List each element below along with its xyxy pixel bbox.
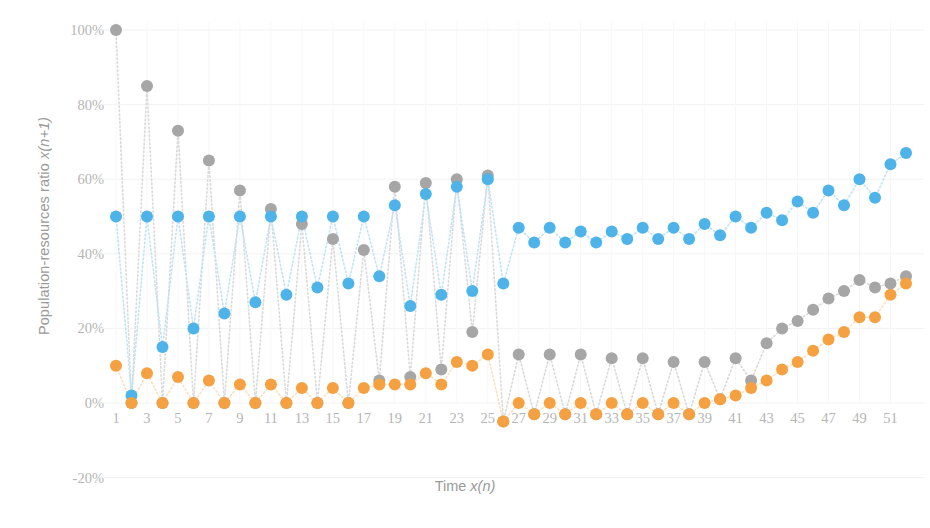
data-point[interactable] [575,397,587,409]
data-point[interactable] [621,233,633,245]
data-point[interactable] [823,334,835,346]
data-point[interactable] [714,393,726,405]
data-point[interactable] [373,270,385,282]
data-point[interactable] [435,378,447,390]
data-point[interactable] [513,349,525,361]
data-point[interactable] [606,397,618,409]
data-point[interactable] [730,352,742,364]
data-point[interactable] [188,397,200,409]
data-point[interactable] [342,278,354,290]
data-point[interactable] [513,397,525,409]
data-point[interactable] [358,382,370,394]
data-point[interactable] [435,289,447,301]
data-point[interactable] [683,233,695,245]
data-point[interactable] [327,382,339,394]
data-point[interactable] [249,296,261,308]
data-point[interactable] [885,158,897,170]
data-point[interactable] [327,211,339,223]
data-point[interactable] [807,345,819,357]
data-point[interactable] [559,408,571,420]
data-point[interactable] [234,211,246,223]
data-point[interactable] [234,378,246,390]
data-point[interactable] [280,289,292,301]
data-point[interactable] [497,416,509,428]
data-point[interactable] [203,155,215,167]
data-point[interactable] [838,285,850,297]
data-point[interactable] [420,367,432,379]
data-point[interactable] [528,237,540,249]
data-point[interactable] [110,24,122,36]
data-point[interactable] [157,397,169,409]
data-point[interactable] [606,225,618,237]
data-point[interactable] [218,308,230,320]
data-point[interactable] [389,181,401,193]
data-point[interactable] [869,311,881,323]
data-point[interactable] [807,207,819,219]
data-point[interactable] [451,356,463,368]
data-point[interactable] [761,375,773,387]
data-point[interactable] [126,397,138,409]
data-point[interactable] [451,181,463,193]
data-point[interactable] [699,218,711,230]
data-point[interactable] [466,360,478,372]
data-point[interactable] [389,378,401,390]
data-point[interactable] [699,356,711,368]
data-point[interactable] [404,378,416,390]
data-point[interactable] [575,349,587,361]
data-point[interactable] [544,222,556,234]
data-point[interactable] [652,233,664,245]
data-point[interactable] [188,322,200,334]
data-point[interactable] [807,304,819,316]
data-point[interactable] [466,326,478,338]
data-point[interactable] [637,397,649,409]
data-point[interactable] [792,356,804,368]
data-point[interactable] [823,184,835,196]
data-point[interactable] [265,378,277,390]
data-point[interactable] [420,177,432,189]
data-point[interactable] [730,390,742,402]
data-point[interactable] [110,360,122,372]
data-point[interactable] [838,326,850,338]
data-point[interactable] [141,80,153,92]
data-point[interactable] [358,244,370,256]
data-point[interactable] [761,207,773,219]
data-point[interactable] [854,173,866,185]
data-point[interactable] [885,289,897,301]
data-point[interactable] [683,408,695,420]
data-point[interactable] [559,237,571,249]
data-point[interactable] [296,211,308,223]
data-point[interactable] [203,211,215,223]
data-point[interactable] [528,408,540,420]
data-point[interactable] [358,211,370,223]
data-point[interactable] [110,211,122,223]
data-point[interactable] [342,397,354,409]
data-point[interactable] [761,337,773,349]
data-point[interactable] [311,397,323,409]
data-point[interactable] [823,293,835,305]
data-point[interactable] [575,225,587,237]
data-point[interactable] [900,147,912,159]
data-point[interactable] [869,281,881,293]
data-point[interactable] [172,211,184,223]
data-point[interactable] [776,214,788,226]
data-point[interactable] [544,349,556,361]
data-point[interactable] [621,408,633,420]
data-point[interactable] [497,278,509,290]
data-point[interactable] [420,188,432,200]
data-point[interactable] [172,371,184,383]
data-point[interactable] [668,222,680,234]
data-point[interactable] [296,382,308,394]
data-point[interactable] [513,222,525,234]
data-point[interactable] [668,356,680,368]
data-point[interactable] [141,367,153,379]
data-point[interactable] [435,363,447,375]
data-point[interactable] [311,281,323,293]
data-point[interactable] [404,300,416,312]
data-point[interactable] [838,199,850,211]
data-point[interactable] [637,352,649,364]
data-point[interactable] [327,233,339,245]
data-point[interactable] [141,211,153,223]
data-point[interactable] [792,196,804,208]
data-point[interactable] [590,237,602,249]
data-point[interactable] [869,192,881,204]
